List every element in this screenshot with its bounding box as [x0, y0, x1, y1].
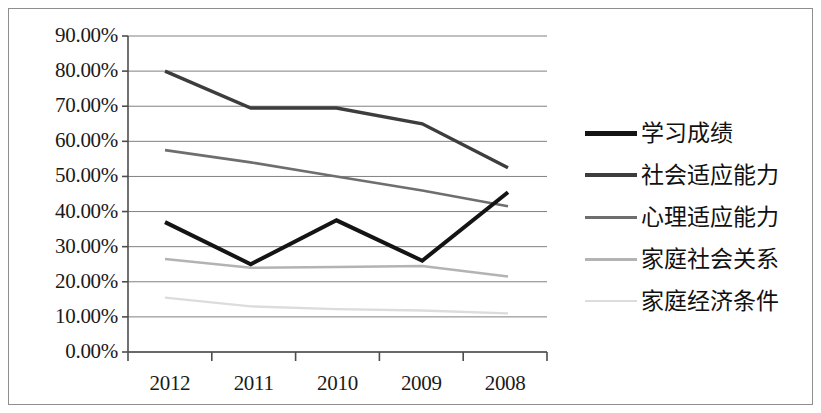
y-axis [122, 36, 128, 352]
legend-line-swatch [585, 131, 637, 136]
data-series-line [165, 192, 508, 264]
y-axis-tick-label: 60.00% [14, 130, 118, 151]
chart-container: 90.00%80.00%70.00%60.00%50.00%40.00%30.0… [0, 0, 821, 413]
y-axis-tick-label: 40.00% [14, 201, 118, 222]
y-axis-tick-label: 20.00% [14, 271, 118, 292]
chart-legend: 学习成绩社会适应能力心理适应能力家庭社会关系家庭经济条件 [585, 112, 815, 322]
data-series-line [165, 259, 508, 277]
y-axis-tick-label: 50.00% [14, 165, 118, 186]
y-axis-tick-label: 10.00% [14, 306, 118, 327]
legend-item-label: 心理适应能力 [641, 206, 779, 229]
legend-item[interactable]: 家庭社会关系 [585, 238, 815, 280]
legend-item-label: 家庭经济条件 [641, 290, 779, 313]
y-axis-tick-label: 30.00% [14, 236, 118, 257]
legend-item-label: 社会适应能力 [641, 164, 779, 187]
data-series-line [165, 150, 508, 206]
legend-item-label: 家庭社会关系 [641, 248, 779, 271]
y-axis-tick-label: 80.00% [14, 60, 118, 81]
y-axis-tick-label: 70.00% [14, 95, 118, 116]
legend-item[interactable]: 社会适应能力 [585, 154, 815, 196]
y-axis-tick-label: 90.00% [14, 25, 118, 46]
legend-line-swatch [585, 258, 637, 261]
y-axis-tick-label: 0.00% [14, 341, 118, 362]
legend-line-swatch [585, 300, 637, 302]
data-series-line [165, 298, 508, 314]
x-axis [128, 352, 547, 361]
legend-line-swatch [585, 216, 637, 219]
legend-item-label: 学习成绩 [641, 122, 733, 145]
legend-item[interactable]: 学习成绩 [585, 112, 815, 154]
legend-item[interactable]: 心理适应能力 [585, 196, 815, 238]
x-axis-tick-label: 2008 [455, 373, 555, 394]
data-series-line [165, 71, 508, 168]
data-series-group [165, 71, 508, 313]
legend-item[interactable]: 家庭经济条件 [585, 280, 815, 322]
legend-line-swatch [585, 173, 637, 177]
